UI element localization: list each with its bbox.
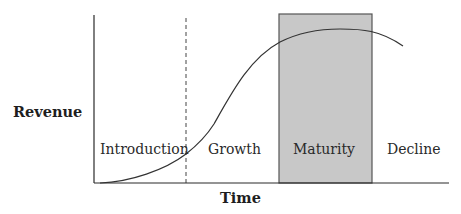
x-axis-title: Time [220,189,261,206]
stage-label-maturity: Maturity [293,141,355,157]
stage-label-decline: Decline [387,141,441,157]
stage-label-growth: Growth [208,141,261,157]
maturity-highlight-box [279,14,372,183]
y-axis-title: Revenue [13,103,82,120]
product-life-cycle-diagram: Introduction Growth Maturity Decline Rev… [0,0,461,214]
stage-label-introduction: Introduction [100,141,189,157]
